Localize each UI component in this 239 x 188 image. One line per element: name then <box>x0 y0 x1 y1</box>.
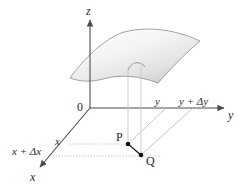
y-axis-label: y <box>228 109 233 121</box>
origin-label: 0 <box>77 101 83 113</box>
figure-canvas: z y x 0 y y + Δy x x + Δx P Q <box>0 0 239 188</box>
point-Q-marker[interactable] <box>139 153 144 158</box>
point-P-marker[interactable] <box>126 142 131 147</box>
z-axis-label: z <box>86 5 91 17</box>
x-tick-label: x <box>55 136 60 147</box>
x-axis-label: x <box>30 171 35 183</box>
point-Q-label: Q <box>146 155 155 167</box>
guide-ydy-to-Q <box>141 108 193 155</box>
x-axis <box>40 108 90 167</box>
y-increment-label: y + Δy <box>179 96 208 107</box>
guide-y-to-P <box>128 108 166 144</box>
point-P-label: P <box>116 131 123 143</box>
diagram-svg <box>0 0 239 188</box>
segment-PQ <box>128 144 141 155</box>
x-increment-label: x + Δx <box>12 146 41 157</box>
y-tick-label: y <box>155 96 160 107</box>
